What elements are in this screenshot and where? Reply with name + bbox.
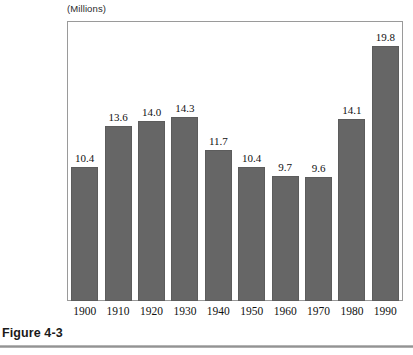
plot-area: 10.413.614.014.311.710.49.79.614.119.8 (68, 22, 402, 301)
y-axis-unit-label: (Millions) (67, 3, 106, 14)
x-axis-tick-label: 1950 (235, 305, 268, 317)
bar-slot: 14.3 (168, 22, 201, 301)
figure-caption: Figure 4-3 (2, 326, 63, 340)
x-axis-tick-label: 1940 (202, 305, 235, 317)
bar-slot: 9.7 (268, 22, 301, 301)
bar-value-label: 14.3 (175, 103, 194, 114)
bar-slot: 14.1 (335, 22, 368, 301)
bar-slot: 10.4 (235, 22, 268, 301)
bar[interactable] (71, 167, 98, 301)
bar-slot: 10.4 (68, 22, 101, 301)
bar-value-label: 11.7 (209, 136, 228, 147)
bar-slot: 14.0 (135, 22, 168, 301)
bar-slot: 13.6 (101, 22, 134, 301)
bar-slot: 9.6 (302, 22, 335, 301)
bar[interactable] (338, 119, 365, 301)
bar[interactable] (171, 117, 198, 301)
x-axis-tick-label: 1960 (268, 305, 301, 317)
x-axis-tick-labels: 1900191019201930194019501960197019801990 (68, 305, 402, 317)
bar-value-label: 14.0 (142, 107, 161, 118)
x-axis-tick-label: 1930 (168, 305, 201, 317)
bar[interactable] (105, 126, 132, 301)
caption-divider (0, 345, 413, 348)
x-axis-tick-label: 1990 (369, 305, 402, 317)
bar-value-label: 10.4 (75, 153, 94, 164)
bar-series: 10.413.614.014.311.710.49.79.614.119.8 (68, 22, 402, 301)
bar[interactable] (138, 121, 165, 301)
bar-value-label: 19.8 (376, 32, 395, 43)
x-axis-tick-label: 1970 (302, 305, 335, 317)
bar-value-label: 9.7 (278, 162, 292, 173)
bar-value-label: 13.6 (108, 112, 127, 123)
bar-value-label: 9.6 (312, 163, 326, 174)
bar[interactable] (372, 46, 399, 301)
x-axis-tick-label: 1980 (335, 305, 368, 317)
x-axis-tick-label: 1910 (101, 305, 134, 317)
x-axis-tick-label: 1920 (135, 305, 168, 317)
bar-value-label: 10.4 (242, 153, 261, 164)
bar-slot: 19.8 (369, 22, 402, 301)
bar[interactable] (205, 150, 232, 301)
bar[interactable] (272, 176, 299, 301)
bar[interactable] (238, 167, 265, 301)
bar-value-label: 14.1 (342, 105, 361, 116)
x-axis-tick-label: 1900 (68, 305, 101, 317)
bar-slot: 11.7 (202, 22, 235, 301)
bar[interactable] (305, 177, 332, 301)
